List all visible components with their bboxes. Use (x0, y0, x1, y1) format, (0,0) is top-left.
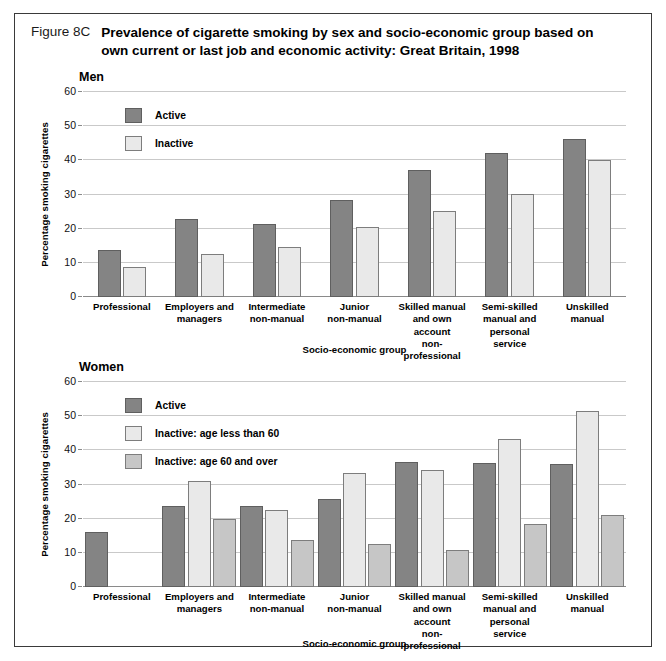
bar (201, 254, 224, 297)
y-tick-label-0: 0 (70, 580, 76, 592)
y-tick-mark-30 (78, 194, 82, 195)
y-axis-title-men-text: Percentage smoking cigarettes (39, 122, 50, 267)
y-tick-label-30: 30 (64, 188, 76, 200)
bar (291, 540, 314, 587)
figure-title: Prevalence of cigarette smoking by sex a… (101, 24, 601, 60)
legend-label: Inactive: age less than 60 (155, 428, 279, 439)
bar (588, 160, 611, 297)
y-tick-mark-20 (78, 518, 82, 519)
bar (576, 411, 599, 587)
bar (162, 506, 185, 587)
bar (395, 462, 418, 587)
bar-group (548, 92, 626, 297)
bar (433, 211, 456, 297)
y-tick-label-10: 10 (64, 546, 76, 558)
y-tick-label-30: 30 (64, 478, 76, 490)
bar (511, 194, 534, 297)
panel-heading-women: Women (79, 360, 124, 374)
bar-group (316, 382, 394, 587)
y-tick-mark-50 (78, 415, 82, 416)
y-tick-mark-10 (78, 262, 82, 263)
legend-men: ActiveInactive (125, 108, 193, 164)
legend-item: Active (125, 108, 193, 123)
bar (278, 247, 301, 297)
y-tick-mark-60 (78, 381, 82, 382)
legend-swatch (125, 136, 142, 151)
chart-panel-women: Women Percentage smoking cigarettes 0102… (15, 360, 653, 650)
y-tick-mark-20 (78, 228, 82, 229)
y-tick-mark-0 (78, 296, 82, 297)
bar-group (471, 382, 549, 587)
bar (265, 510, 288, 587)
bar (85, 532, 108, 587)
legend-item: Inactive: age less than 60 (125, 426, 279, 441)
bar (368, 544, 391, 587)
bar (524, 524, 547, 587)
figure-frame: Figure 8C Prevalence of cigarette smokin… (14, 13, 652, 647)
legend-label: Inactive (155, 138, 193, 149)
bar (240, 506, 263, 587)
legend-women: ActiveInactive: age less than 60Inactive… (125, 398, 279, 482)
bar (98, 250, 121, 297)
y-tick-mark-40 (78, 159, 82, 160)
legend-item: Active (125, 398, 279, 413)
bar (356, 227, 379, 297)
y-tick-label-50: 50 (64, 119, 76, 131)
bar (188, 481, 211, 587)
figure-title-row: Figure 8C Prevalence of cigarette smokin… (31, 24, 641, 60)
legend-swatch (125, 454, 142, 469)
y-tick-mark-30 (78, 484, 82, 485)
legend-label: Active (155, 110, 186, 121)
bar (485, 153, 508, 297)
bar-group (393, 382, 471, 587)
bar (318, 499, 341, 587)
legend-swatch (125, 108, 142, 123)
bar (408, 170, 431, 297)
bar (253, 224, 276, 297)
bar-group (548, 382, 626, 587)
bar-group (238, 92, 316, 297)
y-tick-mark-0 (78, 586, 82, 587)
bar (498, 439, 521, 587)
y-tick-label-10: 10 (64, 256, 76, 268)
y-tick-label-0: 0 (70, 290, 76, 302)
y-tick-mark-60 (78, 91, 82, 92)
y-axis-title-women-text: Percentage smoking cigarettes (39, 412, 50, 557)
y-tick-label-20: 20 (64, 512, 76, 524)
x-axis-title-men: Socio-economic group (83, 344, 626, 355)
legend-label: Active (155, 400, 186, 411)
y-axis-title-women: Percentage smoking cigarettes (37, 382, 51, 587)
bar (123, 267, 146, 297)
y-tick-label-40: 40 (64, 153, 76, 165)
bar (473, 463, 496, 587)
y-tick-label-40: 40 (64, 443, 76, 455)
y-axis-title-men: Percentage smoking cigarettes (37, 92, 51, 297)
y-tick-mark-40 (78, 449, 82, 450)
bar-group (393, 92, 471, 297)
y-tick-mark-10 (78, 552, 82, 553)
bar-group (316, 92, 394, 297)
bar (330, 200, 353, 297)
bar (343, 473, 366, 587)
y-tick-label-60: 60 (64, 375, 76, 387)
y-tick-mark-50 (78, 125, 82, 126)
bar (213, 519, 236, 587)
bar (446, 550, 469, 587)
legend-label: Inactive: age 60 and over (155, 456, 277, 467)
y-tick-label-50: 50 (64, 409, 76, 421)
y-tick-label-60: 60 (64, 85, 76, 97)
bar (175, 219, 198, 297)
chart-panel-men: Men Percentage smoking cigarettes 010203… (15, 70, 653, 360)
x-axis-title-women: Socio-economic group (83, 638, 626, 649)
bar (563, 139, 586, 297)
legend-item: Inactive (125, 136, 193, 151)
legend-item: Inactive: age 60 and over (125, 454, 279, 469)
bar (601, 515, 624, 587)
y-tick-label-20: 20 (64, 222, 76, 234)
legend-swatch (125, 426, 142, 441)
bar (550, 464, 573, 587)
bar (421, 470, 444, 587)
panel-heading-men: Men (79, 70, 104, 84)
figure-number: Figure 8C (31, 24, 90, 39)
legend-swatch (125, 398, 142, 413)
